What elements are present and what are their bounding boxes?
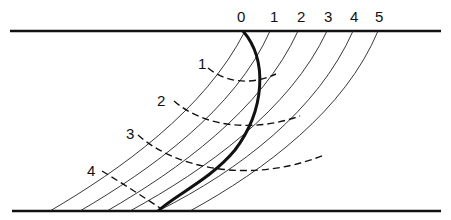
arc-2 xyxy=(174,101,300,125)
arc-label-2: 2 xyxy=(157,92,165,109)
column-label-3: 3 xyxy=(324,8,332,25)
curve-labels: 1234 xyxy=(87,55,206,179)
arc-4 xyxy=(102,171,160,208)
column-label-5: 5 xyxy=(375,8,383,25)
arc-label-4: 4 xyxy=(87,162,95,179)
arc-label-1: 1 xyxy=(198,55,206,72)
column-label-2: 2 xyxy=(297,8,305,25)
arc-label-3: 3 xyxy=(126,125,134,142)
column-label-0: 0 xyxy=(237,8,245,25)
diagram-canvas: 012345 1234 xyxy=(0,0,451,220)
arc-1 xyxy=(208,68,276,81)
column-labels: 012345 xyxy=(237,8,383,25)
line-3 xyxy=(130,31,327,211)
bold-curve xyxy=(158,31,260,211)
column-label-4: 4 xyxy=(350,8,358,25)
column-label-1: 1 xyxy=(270,8,278,25)
wave-diagram: 012345 1234 xyxy=(0,0,451,220)
line-0 xyxy=(50,31,245,211)
